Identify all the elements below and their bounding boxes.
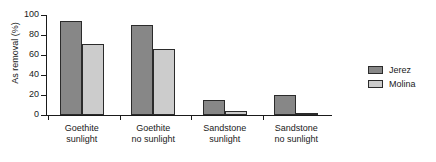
category-label: Sandstoneno sunlight (261, 123, 333, 144)
bar-jerez-sandstone-sunlight (203, 100, 225, 115)
bar-molina-goethite-sunlight (82, 44, 104, 115)
category-label: Goethitesunlight (46, 123, 118, 144)
bar-chart-figure: As removal (%) 020406080100 Goethitesunl… (0, 0, 436, 162)
bar-jerez-sandstone-no-sunlight (274, 95, 296, 115)
category-label: Goethiteno sunlight (118, 123, 190, 144)
legend-label: Molina (389, 79, 416, 89)
y-tick-label: 60 (29, 49, 39, 59)
y-tick-mark (41, 55, 46, 56)
category-label-line: Goethite (46, 123, 118, 134)
y-tick-mark (41, 115, 46, 116)
y-tick-mark (41, 35, 46, 36)
category-label-line: Sandstone (261, 123, 333, 134)
bar-jerez-goethite-no-sunlight (131, 25, 153, 115)
bar-molina-sandstone-no-sunlight (296, 113, 318, 115)
y-axis-spine (46, 15, 47, 115)
y-tick-mark (41, 95, 46, 96)
y-tick-mark (41, 15, 46, 16)
legend-item-molina: Molina (368, 77, 434, 91)
legend-swatch-jerez (368, 66, 383, 74)
legend-item-jerez: Jerez (368, 63, 434, 77)
category-label-line: no sunlight (118, 134, 190, 145)
x-axis-spine (46, 115, 332, 116)
y-tick-label: 20 (29, 89, 39, 99)
x-tick-mark (120, 115, 121, 120)
legend-label: Jerez (389, 65, 411, 75)
y-axis-title: As removal (%) (10, 8, 20, 98)
category-label: Sandstonesunlight (189, 123, 261, 144)
y-tick-mark (41, 75, 46, 76)
category-label-line: sunlight (46, 134, 118, 145)
plot-area: 020406080100 GoethitesunlightGoethiteno … (46, 15, 332, 115)
x-tick-mark (191, 115, 192, 120)
chart-legend: JerezMolina (368, 63, 434, 91)
y-tick-label: 40 (29, 69, 39, 79)
bar-molina-sandstone-sunlight (225, 111, 247, 115)
x-tick-mark (48, 115, 49, 120)
y-tick-label: 0 (34, 109, 39, 119)
category-label-line: no sunlight (261, 134, 333, 145)
y-tick-label: 80 (29, 29, 39, 39)
bar-jerez-goethite-sunlight (60, 21, 82, 115)
y-tick-label: 100 (24, 9, 39, 19)
category-label-line: Sandstone (189, 123, 261, 134)
category-label-line: sunlight (189, 134, 261, 145)
legend-swatch-molina (368, 80, 383, 88)
bar-molina-goethite-no-sunlight (153, 49, 175, 115)
category-label-line: Goethite (118, 123, 190, 134)
x-tick-mark (263, 115, 264, 120)
